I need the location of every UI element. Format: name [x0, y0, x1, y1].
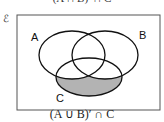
venn-diagram: A B C: [0, 0, 164, 122]
set-a-label: A: [31, 31, 39, 43]
set-c-label: C: [56, 92, 64, 104]
shaded-region: [0, 0, 164, 122]
set-b-label: B: [139, 29, 146, 41]
diagram-caption: (A ∪ B)′ ∩ C: [0, 107, 164, 122]
